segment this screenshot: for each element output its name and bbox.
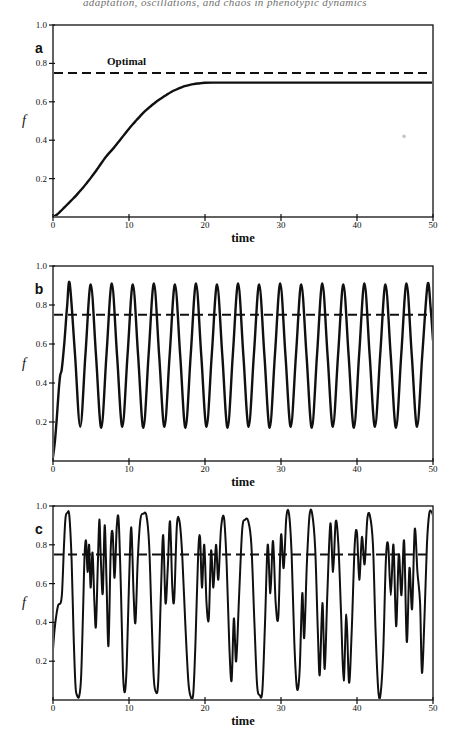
optimal-annotation: Optimal — [107, 55, 146, 67]
y-tick-label: 0.6 — [36, 579, 48, 589]
print-speck — [402, 135, 406, 139]
y-tick-label: 0.2 — [36, 656, 47, 666]
x-tick-label: 30 — [277, 220, 287, 230]
x-tick-label: 50 — [429, 220, 439, 230]
y-tick-label: 1.0 — [36, 20, 48, 30]
y-tick-label: 0.6 — [36, 339, 48, 349]
x-tick-label: 10 — [125, 464, 135, 474]
panel-c: 010203040500.20.40.60.81.0timefc — [22, 501, 438, 728]
y-tick-label: 0.8 — [36, 58, 48, 68]
x-tick-label: 0 — [51, 703, 56, 713]
x-tick-label: 40 — [353, 464, 363, 474]
panel-letter-a: a — [35, 40, 43, 56]
y-tick-label: 0.4 — [36, 135, 48, 145]
trajectory-curve — [53, 510, 433, 700]
x-tick-label: 10 — [125, 703, 135, 713]
x-axis-title: time — [231, 475, 255, 489]
x-tick-label: 50 — [429, 703, 439, 713]
x-tick-label: 20 — [201, 703, 211, 713]
trajectory-curve — [53, 282, 433, 457]
x-axis-title: time — [231, 714, 255, 728]
y-tick-label: 0.2 — [36, 174, 47, 184]
page: { "page": { "background": "#ffffff", "he… — [0, 0, 450, 742]
y-tick-label: 0.8 — [36, 540, 48, 550]
x-tick-label: 40 — [353, 220, 363, 230]
y-tick-label: 0.2 — [36, 417, 47, 427]
x-tick-label: 50 — [429, 464, 439, 474]
panel-letter-c: c — [35, 521, 43, 537]
x-tick-label: 0 — [51, 464, 56, 474]
y-tick-label: 0.4 — [36, 378, 48, 388]
trajectory-curve — [53, 83, 433, 217]
panel-letter-b: b — [35, 281, 44, 297]
x-tick-label: 30 — [277, 703, 287, 713]
y-tick-label: 0.6 — [36, 97, 48, 107]
y-tick-label: 1.0 — [36, 261, 48, 271]
x-axis-title: time — [231, 231, 255, 245]
y-tick-label: 0.4 — [36, 617, 48, 627]
panel-a: 010203040500.20.40.60.81.0timefaOptimal — [22, 20, 438, 245]
x-tick-label: 0 — [51, 220, 56, 230]
x-tick-label: 10 — [125, 220, 135, 230]
y-tick-label: 1.0 — [36, 501, 48, 511]
plot-frame — [53, 25, 433, 217]
y-axis-title: f — [22, 113, 28, 128]
panel-b: 010203040500.20.40.60.81.0timefb — [22, 261, 438, 489]
y-axis-title: f — [22, 595, 28, 610]
x-tick-label: 30 — [277, 464, 287, 474]
x-tick-label: 20 — [201, 220, 211, 230]
figure-canvas: 010203040500.20.40.60.81.0timefaOptimal0… — [0, 0, 450, 742]
y-axis-title: f — [22, 356, 28, 371]
y-tick-label: 0.8 — [36, 300, 48, 310]
x-tick-label: 20 — [201, 464, 211, 474]
x-tick-label: 40 — [353, 703, 363, 713]
